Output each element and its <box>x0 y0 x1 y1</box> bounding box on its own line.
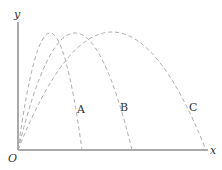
curve-c <box>18 32 206 150</box>
curve-b-label: B <box>120 101 128 114</box>
curve-a-label: A <box>76 103 86 116</box>
curve-a <box>18 33 82 150</box>
y-axis-label: y <box>13 8 21 21</box>
trajectory-diagram: y x O A B C <box>0 0 222 170</box>
x-axis-label: x <box>210 144 217 157</box>
origin-label: O <box>8 152 17 165</box>
curve-c-label: C <box>189 101 197 114</box>
